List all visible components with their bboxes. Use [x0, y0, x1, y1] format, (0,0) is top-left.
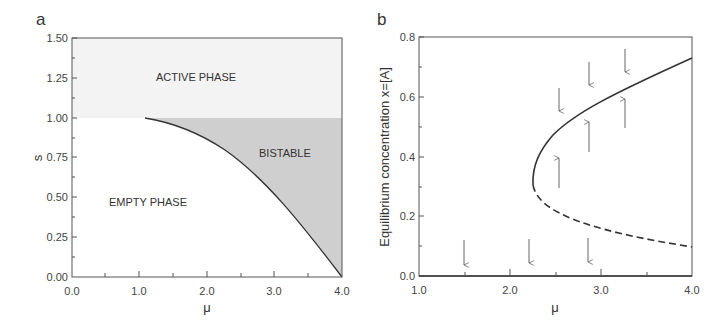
- panel-a-xtick-labels: 0.0 1.0 2.0 3.0 4.0: [64, 285, 349, 297]
- ytick-label: 0.6: [400, 91, 415, 103]
- ytick-label: 1.50: [47, 32, 68, 44]
- ytick-label: 0.50: [47, 191, 68, 203]
- xtick-label: 3.0: [266, 285, 281, 297]
- ytick-label: 0.4: [400, 151, 415, 163]
- xtick-label: 3.0: [593, 284, 608, 296]
- xtick-label: 1.0: [131, 285, 146, 297]
- xtick-label: 2.0: [502, 284, 517, 296]
- panel-a-xticks: [105, 271, 308, 277]
- figure: a: [0, 0, 727, 328]
- panel-a-label: a: [36, 10, 46, 29]
- ytick-label: 0.25: [47, 231, 68, 243]
- panel-b-ylabel: Equilibrium concentration x=[A]: [377, 67, 392, 247]
- ytick-label: 1.25: [47, 72, 68, 84]
- ytick-label: 0.8: [400, 31, 415, 43]
- ytick-label: 0.75: [47, 151, 68, 163]
- panel-b-ytick-labels: 0.8 0.6 0.4 0.2 0.0: [400, 31, 415, 282]
- panel-a-ytick-labels: 1.50 1.25 1.00 0.75 0.50 0.25 0.00: [47, 32, 68, 283]
- empty-phase-label: EMPTY PHASE: [109, 196, 187, 208]
- ytick-label: 0.00: [47, 271, 68, 283]
- ytick-label: 0.0: [400, 270, 415, 282]
- ytick-label: 0.2: [400, 210, 415, 222]
- panel-b-yticks: [419, 37, 424, 246]
- xtick-label: 2.0: [199, 285, 214, 297]
- xtick-label: 1.0: [411, 284, 426, 296]
- flow-arrows: [464, 49, 625, 265]
- stable-branch-curve: [533, 58, 692, 185]
- xtick-label: 4.0: [684, 284, 699, 296]
- unstable-branch-curve: [533, 185, 692, 247]
- panel-b-label: b: [377, 10, 386, 29]
- panel-b-xticks: [465, 269, 647, 276]
- panel-b: b 0.8 0.6 0: [377, 10, 700, 315]
- active-phase-label: ACTIVE PHASE: [156, 71, 236, 83]
- panel-b-xtick-labels: 1.0 2.0 3.0 4.0: [411, 284, 699, 296]
- ytick-label: 1.00: [47, 112, 68, 124]
- panel-a-xlabel: μ: [203, 300, 211, 315]
- panel-a-ylabel: s: [30, 154, 45, 161]
- bistable-label: BISTABLE: [259, 147, 311, 159]
- panel-b-xlabel: μ: [551, 300, 559, 315]
- panel-a: a: [30, 10, 350, 315]
- xtick-label: 4.0: [334, 285, 349, 297]
- xtick-label: 0.0: [64, 285, 79, 297]
